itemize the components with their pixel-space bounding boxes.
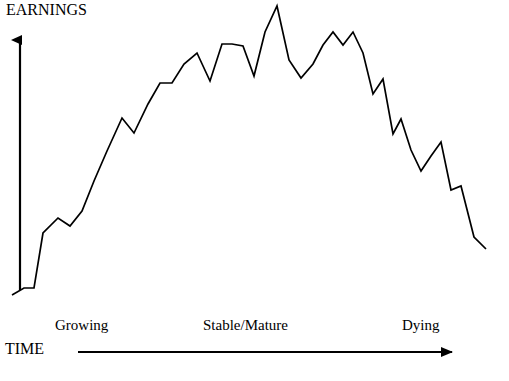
phase-label-dying: Dying (402, 318, 440, 333)
phase-label-stable-mature: Stable/Mature (203, 318, 288, 333)
phase-label-growing: Growing (55, 318, 108, 333)
y-axis-title: EARNINGS (6, 2, 87, 18)
earnings-lifecycle-figure: EARNINGS TIME Growing Stable/Mature Dyin… (0, 0, 509, 381)
x-axis-title: TIME (5, 341, 44, 357)
earnings-curve (12, 6, 486, 295)
